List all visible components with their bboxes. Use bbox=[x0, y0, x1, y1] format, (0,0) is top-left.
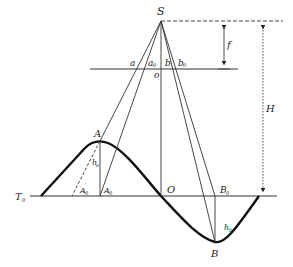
label-H: H bbox=[265, 103, 275, 114]
label-A0prime-sup: ′ bbox=[85, 181, 87, 188]
label-A0-sub: 0 bbox=[109, 190, 113, 196]
label-ha-sub: a bbox=[96, 162, 99, 168]
label-B0-sub: 0 bbox=[226, 190, 230, 196]
label-S: S bbox=[157, 5, 165, 18]
label-O: O bbox=[167, 184, 175, 195]
label-B: B bbox=[210, 248, 218, 259]
label-hb-sub: b bbox=[229, 227, 232, 233]
label-A0prime-sub: 0 bbox=[85, 190, 89, 196]
label-T0-sub: 0 bbox=[22, 197, 26, 203]
label-o: o bbox=[154, 70, 160, 80]
label-a: a bbox=[130, 58, 135, 68]
label-A: A bbox=[93, 128, 101, 139]
label-b: b bbox=[165, 58, 171, 68]
ray-S-A bbox=[100, 21, 161, 141]
ray-S-B0 bbox=[161, 21, 215, 196]
ray-S-B bbox=[161, 21, 215, 242]
ray-S-A0 bbox=[100, 21, 161, 196]
label-b0-sub: 0 bbox=[183, 62, 187, 68]
label-f: f bbox=[226, 39, 233, 50]
label-a0-sub: 0 bbox=[153, 62, 157, 68]
projection-diagram: S f H a a 0 b b 0 o A h a A 0 ′ A 0 O B … bbox=[0, 0, 293, 267]
